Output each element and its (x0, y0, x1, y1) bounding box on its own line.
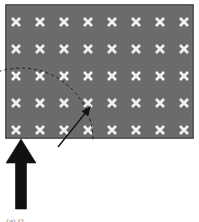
sensor-field-group (6, 5, 193, 138)
sensor-field (6, 5, 193, 138)
figure-root: (a) t1 (0, 0, 199, 222)
figure-canvas (0, 0, 199, 222)
figure-caption: (a) t1 (6, 218, 25, 222)
